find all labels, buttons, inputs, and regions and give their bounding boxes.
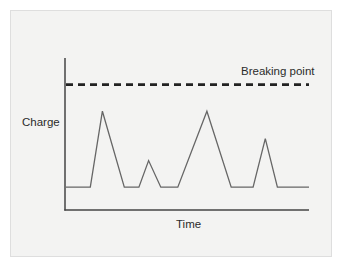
- chart-canvas: [0, 0, 338, 266]
- breaking-point-label: Breaking point: [241, 66, 315, 78]
- charge-series-line: [66, 111, 309, 187]
- y-axis-label: Charge: [22, 117, 60, 129]
- x-axis-label: Time: [176, 219, 201, 231]
